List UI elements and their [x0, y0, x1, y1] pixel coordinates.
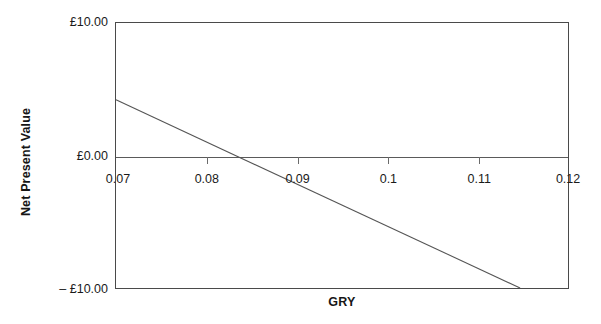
plot-area: 0.070.080.090.10.110.12	[115, 22, 569, 289]
x-tick-label: 0.07	[106, 173, 130, 186]
x-tick-mark	[298, 157, 299, 164]
x-tick-label: 0.08	[195, 173, 219, 186]
x-tick-label: 0.11	[467, 173, 490, 186]
x-axis-title: GRY	[115, 295, 569, 309]
x-tick-mark	[207, 157, 208, 164]
y-axis-tick-labels: £10.00£0.00– £10.00	[28, 0, 108, 324]
y-tick-label: – £10.00	[30, 283, 108, 296]
series-line-layer	[116, 23, 568, 288]
x-tick-mark	[479, 157, 480, 164]
npv-line	[116, 100, 520, 288]
x-tick-label: 0.1	[380, 173, 397, 186]
x-tick-mark	[388, 157, 389, 164]
y-tick-label: £10.00	[30, 16, 108, 29]
x-tick-label: 0.09	[285, 173, 309, 186]
y-tick-label: £0.00	[30, 150, 108, 163]
chart-figure: Net Present Value £10.00£0.00– £10.00 0.…	[0, 0, 601, 324]
x-tick-label: 0.12	[556, 173, 580, 186]
